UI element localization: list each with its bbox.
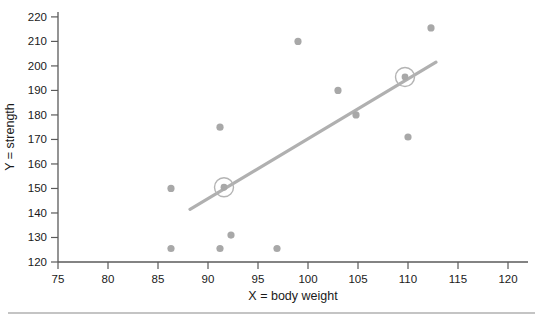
x-axis-tick-labels: 7580859095100105110115120	[52, 273, 518, 285]
data-point	[167, 185, 174, 192]
x-axis-ticks	[58, 262, 508, 269]
data-point	[227, 231, 234, 238]
y-tick-label: 200	[28, 60, 47, 72]
data-point	[294, 38, 301, 45]
x-axis: 7580859095100105110115120	[52, 262, 528, 285]
data-point	[402, 74, 409, 81]
y-tick-label: 130	[28, 231, 47, 243]
data-point	[427, 24, 434, 31]
data-point	[216, 245, 223, 252]
scatter-plot-figure: 120130140150160170180190200210220 758085…	[0, 0, 543, 323]
y-tick-label: 150	[28, 182, 47, 194]
x-tick-label: 80	[102, 273, 115, 285]
x-tick-label: 90	[202, 273, 215, 285]
x-tick-label: 110	[399, 273, 417, 285]
x-tick-label: 75	[52, 273, 65, 285]
y-axis: 120130140150160170180190200210220	[28, 11, 58, 268]
x-tick-label: 100	[298, 273, 317, 285]
x-tick-label: 120	[498, 273, 517, 285]
y-axis-title: Y = strength	[3, 103, 17, 171]
data-point	[273, 245, 280, 252]
data-point	[404, 133, 411, 140]
data-point	[334, 87, 341, 94]
y-axis-ticks	[51, 17, 58, 262]
x-tick-label: 85	[152, 273, 165, 285]
y-tick-label: 120	[28, 256, 47, 268]
x-tick-label: 95	[252, 273, 265, 285]
data-points-group	[167, 24, 434, 252]
x-tick-label: 115	[449, 273, 467, 285]
data-point	[221, 184, 228, 191]
plot-area	[167, 24, 436, 252]
y-tick-label: 180	[28, 109, 47, 121]
data-point	[352, 111, 359, 118]
data-point	[167, 245, 174, 252]
y-tick-label: 210	[28, 35, 47, 47]
x-tick-label: 105	[348, 273, 367, 285]
y-tick-label: 140	[28, 207, 47, 219]
y-axis-tick-labels: 120130140150160170180190200210220	[28, 11, 47, 268]
y-tick-label: 170	[28, 133, 47, 145]
y-tick-label: 160	[28, 158, 47, 170]
y-tick-label: 220	[28, 11, 47, 23]
data-point	[216, 124, 223, 131]
y-tick-label: 190	[28, 84, 47, 96]
chart-canvas: 120130140150160170180190200210220 758085…	[0, 0, 543, 323]
x-axis-title: X = body weight	[248, 289, 338, 303]
